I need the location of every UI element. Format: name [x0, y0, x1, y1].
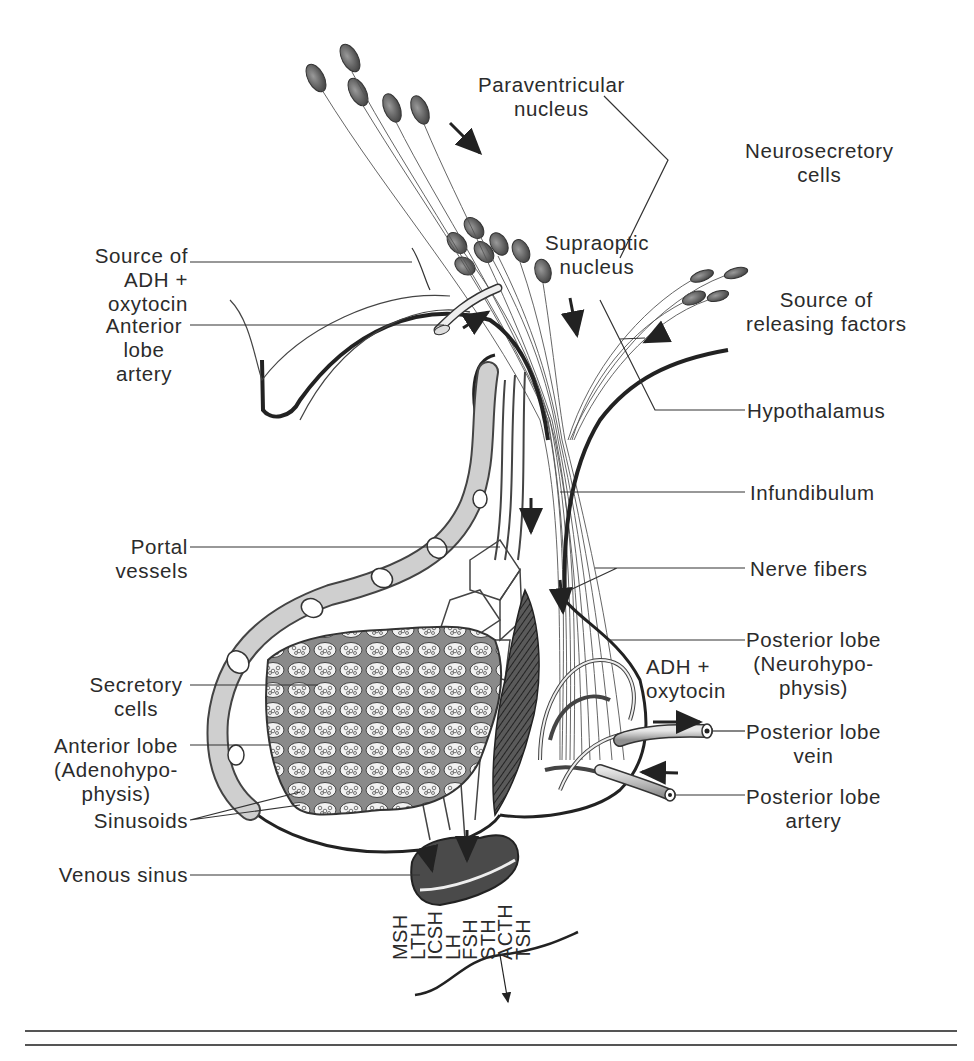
- releasing-factor-cells: [681, 265, 749, 308]
- hypothalamus-outline-left: [262, 314, 548, 440]
- label-posterior-lobe: Posterior lobe (Neurohypo- physis): [746, 628, 881, 700]
- label-posterior-lobe-vein: Posterior lobe vein: [746, 720, 881, 768]
- label-supraoptic-nucleus: Supraoptic nucleus: [545, 231, 649, 279]
- pituitary-diagram: Paraventricular nucleus Neurosecretory c…: [0, 0, 974, 1061]
- label-venous-sinus: Venous sinus: [30, 863, 188, 887]
- label-posterior-lobe-artery: Posterior lobe artery: [746, 785, 881, 833]
- label-anterior-lobe: Anterior lobe (Adenohypo- physis): [42, 734, 190, 806]
- hormone-list: MSH LTH ICSH LH FSH STH ACTH TSH: [392, 904, 532, 960]
- label-adh-oxytocin-release: ADH + oxytocin: [646, 655, 726, 703]
- label-anterior-lobe-artery: Anterior lobe artery: [98, 314, 190, 386]
- label-secretory-cells: Secretory cells: [82, 673, 190, 721]
- stalk-vessels: [495, 372, 525, 560]
- label-hypothalamus: Hypothalamus: [747, 399, 885, 423]
- label-portal-vessels: Portal vessels: [108, 535, 188, 583]
- label-neurosecretory-cells: Neurosecretory cells: [745, 139, 894, 187]
- venous-sinus: [411, 835, 518, 905]
- label-source-releasing-factors: Source of releasing factors: [746, 288, 907, 336]
- anterior-lobe-tissue: [266, 627, 501, 815]
- paraventricular-cells: [302, 41, 433, 127]
- label-source-adh-oxytocin: Source of ADH + oxytocin: [70, 244, 188, 316]
- label-sinusoids: Sinusoids: [70, 809, 188, 833]
- hypothalamus-outline-right: [565, 350, 728, 600]
- supraoptic-cells: [443, 214, 554, 285]
- label-infundibulum: Infundibulum: [750, 481, 875, 505]
- hormone-tsh: TSH: [515, 904, 533, 960]
- label-paraventricular-nucleus: Paraventricular nucleus: [478, 73, 625, 121]
- label-nerve-fibers: Nerve fibers: [750, 557, 868, 581]
